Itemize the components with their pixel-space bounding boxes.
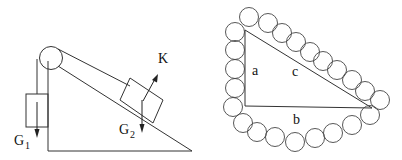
label-g1: G: [14, 133, 24, 148]
diagram-canvas: K G 1 G 2: [0, 0, 402, 160]
arrow-k: [143, 74, 158, 101]
right-triangle: [245, 30, 372, 108]
label-b: b: [293, 112, 300, 127]
rope-incline: [58, 49, 130, 86]
label-a: a: [252, 63, 259, 78]
incline-plane: [48, 61, 192, 151]
label-g1-subscript: 1: [25, 140, 30, 151]
arrow-g1: [35, 102, 40, 138]
circle-chain: [224, 8, 390, 152]
triangle-circles-figure: [224, 8, 390, 152]
label-c: c: [292, 64, 298, 79]
label-k: K: [158, 51, 168, 66]
label-g2-subscript: 2: [130, 129, 135, 140]
label-g2: G: [119, 122, 129, 137]
